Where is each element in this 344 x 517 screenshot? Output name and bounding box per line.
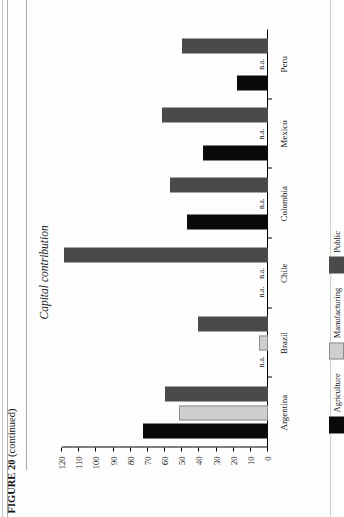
bar-peru-agriculture [237,75,268,90]
na-marker: n.a. [257,198,266,209]
legend-item-agriculture[interactable]: Agriculture [329,373,344,433]
na-marker: n.a. [257,128,266,139]
na-marker: n.a. [257,267,266,278]
figure-continued-note: (continued) [6,408,17,456]
value-tick [61,447,62,451]
value-tick-label: 40 [194,456,204,465]
chart-legend: AgricultureManufacturingPublic [329,231,344,433]
bar-brazil-manufacturing [259,335,268,350]
bar-brazil-public [198,316,268,331]
category-label-argentina: Argentina [279,394,289,430]
value-tick [267,447,268,451]
bar-argentina-public [165,386,268,401]
value-tick-label: 100 [91,456,101,469]
value-tick-label: 110 [74,456,84,468]
category-label-mexico: Mexico [279,120,289,148]
bar-colombia-agriculture [187,215,268,230]
category-tick [268,307,272,308]
figure-number: FIGURE 20 [6,459,17,513]
value-tick [250,447,251,451]
value-tick [164,447,165,451]
legend-label-manufacturing: Manufacturing [332,287,342,338]
value-tick [147,447,148,451]
legend-swatch-public [329,256,344,273]
figure-caption: FIGURE 20 (continued) [6,408,17,513]
legend-label-agriculture: Agriculture [332,373,342,412]
legend-item-manufacturing[interactable]: Manufacturing [329,287,344,359]
legend-swatch-agriculture [329,416,344,433]
value-axis-line [62,446,268,447]
na-marker: n.a. [257,356,266,367]
bar-chart: Capital contribution 0102030405060708090… [40,23,308,491]
bar-argentina-agriculture [143,424,268,439]
category-tick [268,98,272,99]
value-tick-label: 120 [57,456,67,469]
value-tick-label: 20 [229,456,239,465]
value-tick [78,447,79,451]
plot-area: 0102030405060708090100110120 ArgentinaBr… [62,29,268,447]
value-tick [216,447,217,451]
bar-colombia-public [170,177,268,192]
legend-swatch-manufacturing [329,342,344,359]
category-label-colombia: Colombia [279,185,289,221]
bar-mexico-agriculture [203,145,268,160]
value-tick [113,447,114,451]
bar-mexico-public [162,107,268,122]
value-tick [181,447,182,451]
legend-item-public[interactable]: Public [329,231,344,274]
category-tick [268,237,272,238]
value-tick-label: 10 [246,456,256,465]
legend-label-public: Public [332,231,342,253]
category-label-brazil: Brazil [279,332,289,354]
na-marker: n.a. [257,286,266,297]
value-tick-label: 80 [126,456,136,465]
category-tick [268,167,272,168]
value-tick-label: 30 [212,456,222,465]
value-tick [95,447,96,451]
category-label-chile: Chile [279,263,289,283]
bar-argentina-manufacturing [179,405,268,420]
value-tick-label: 90 [109,456,119,465]
na-marker: n.a. [257,58,266,69]
category-label-peru: Peru [279,56,289,73]
bar-chile-public [64,247,268,262]
category-tick [268,376,272,377]
value-tick-label: 0 [263,456,273,460]
chart-axis-title: Capital contribution [38,225,50,319]
value-tick [130,447,131,451]
bar-peru-public [182,38,268,53]
value-tick [233,447,234,451]
value-tick-label: 60 [160,456,170,465]
value-tick-label: 50 [177,456,187,465]
value-tick-label: 70 [143,456,153,465]
value-tick [198,447,199,451]
